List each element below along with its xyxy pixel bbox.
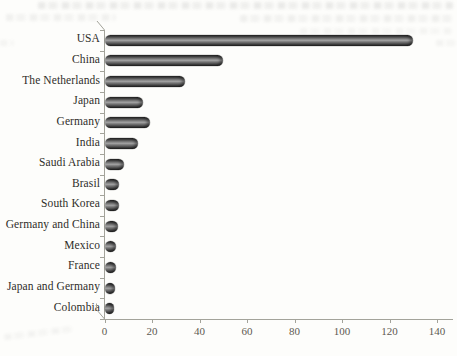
y-axis-tick <box>100 319 104 320</box>
x-axis-tick-label: 0 <box>88 325 122 337</box>
category-label: India <box>0 136 100 148</box>
bar-india <box>105 138 138 149</box>
bar-the-netherlands <box>105 76 186 87</box>
x-axis-tick-label: 20 <box>135 325 169 337</box>
bar-usa <box>105 35 414 46</box>
bar-chart: USAChinaThe NetherlandsJapanGermanyIndia… <box>0 0 457 356</box>
y-axis-tick <box>100 195 104 196</box>
y-axis-tick <box>100 154 104 155</box>
y-axis-tick <box>100 216 104 217</box>
x-axis-tick <box>247 319 248 323</box>
bar-japan-and-germany <box>105 283 116 294</box>
y-axis-tick <box>100 278 104 279</box>
category-label: China <box>0 53 100 65</box>
x-axis-tick-label: 40 <box>183 325 217 337</box>
category-label: South Korea <box>0 197 100 209</box>
y-axis-tick <box>100 175 104 176</box>
category-label: Colombia <box>0 301 100 313</box>
bar-germany-and-china <box>105 221 118 232</box>
x-axis-tick <box>390 319 391 323</box>
x-axis-tick-label: 80 <box>278 325 312 337</box>
bar-france <box>105 262 117 273</box>
bar-saudi-arabia <box>105 159 124 170</box>
y-axis-tick <box>100 30 104 31</box>
x-axis-tick <box>295 319 296 323</box>
x-axis-tick-label: 60 <box>230 325 264 337</box>
category-label: Brasil <box>0 177 100 189</box>
category-label: Mexico <box>0 239 100 251</box>
bar-brasil <box>105 179 119 190</box>
x-axis-tick <box>342 319 343 323</box>
bar-germany <box>105 117 150 128</box>
category-label: The Netherlands <box>0 74 100 86</box>
x-axis-tick-label: 120 <box>373 325 407 337</box>
x-axis-tick <box>437 319 438 323</box>
y-axis-tick <box>100 133 104 134</box>
category-label: France <box>0 259 100 271</box>
category-label: Germany <box>0 115 100 127</box>
y-axis-tick <box>100 298 104 299</box>
category-label: Germany and China <box>0 218 100 230</box>
category-label: USA <box>0 32 100 44</box>
bar-south-korea <box>105 200 119 211</box>
category-label: Japan and Germany <box>0 280 100 292</box>
category-label: Saudi Arabia <box>0 156 100 168</box>
x-axis-tick-label: 140 <box>420 325 454 337</box>
x-axis-line <box>104 319 453 320</box>
bar-mexico <box>105 241 117 252</box>
y-axis-tick <box>100 236 104 237</box>
y-axis-tick <box>100 257 104 258</box>
bar-japan <box>105 97 143 108</box>
y-axis-tick <box>100 113 104 114</box>
x-axis-tick-label: 100 <box>325 325 359 337</box>
x-axis-tick <box>152 319 153 323</box>
y-axis-tick <box>100 51 104 52</box>
category-label: Japan <box>0 94 100 106</box>
y-axis-tick <box>100 71 104 72</box>
scanned-book-page: USAChinaThe NetherlandsJapanGermanyIndia… <box>0 0 457 356</box>
bar-colombia <box>105 303 115 314</box>
y-axis-tick <box>100 92 104 93</box>
y-axis-line <box>104 30 105 319</box>
bar-china <box>105 55 224 66</box>
x-axis-tick <box>200 319 201 323</box>
x-axis-tick <box>105 319 106 323</box>
